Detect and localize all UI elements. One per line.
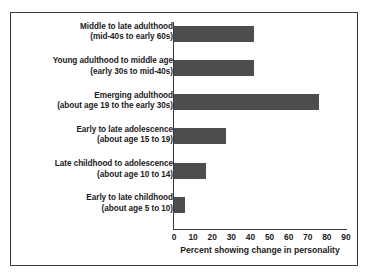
bar-row: Early to late childhood(about age 5 to 1… <box>11 193 357 227</box>
bar-track <box>174 128 346 144</box>
bar-category-label: Emerging adulthood(about age 19 to the e… <box>13 91 173 112</box>
x-axis-ticks: 0102030405060708090 <box>174 232 346 244</box>
x-tick-label: 80 <box>322 232 331 242</box>
bar-track <box>174 94 346 110</box>
bar-category-label: Early to late adolescence(about age 15 t… <box>13 125 173 146</box>
bar-track <box>174 197 346 213</box>
chart-plot-area: Middle to late adulthood(mid-40s to earl… <box>11 13 357 265</box>
bar-row: Middle to late adulthood(mid-40s to earl… <box>11 22 357 56</box>
bar <box>174 26 254 42</box>
bar-row: Late childhood to adolescence(about age … <box>11 159 357 193</box>
bar-rows: Middle to late adulthood(mid-40s to earl… <box>11 22 357 230</box>
bar-category-label-line2: (early 30s to mid-40s) <box>13 67 173 77</box>
x-tick-label: 30 <box>227 232 236 242</box>
bar-category-label-line1: Early to late adolescence <box>13 125 173 135</box>
bar-track <box>174 60 346 76</box>
bar-category-label-line2: (about age 19 to the early 30s) <box>13 101 173 111</box>
x-axis-line <box>173 229 347 230</box>
bar <box>174 128 226 144</box>
x-tick-label: 40 <box>246 232 255 242</box>
bar-category-label: Middle to late adulthood(mid-40s to earl… <box>13 22 173 43</box>
bar <box>174 60 254 76</box>
x-tick-label: 20 <box>208 232 217 242</box>
x-tick-label: 50 <box>265 232 274 242</box>
bar-category-label-line1: Early to late childhood <box>13 193 173 203</box>
bar-track <box>174 163 346 179</box>
y-axis-line <box>173 22 174 230</box>
bar-category-label-line2: (about age 5 to 10) <box>13 204 173 214</box>
bar-category-label-line1: Young adulthood to middle age <box>13 56 173 66</box>
bar-category-label-line1: Middle to late adulthood <box>13 22 173 32</box>
bar-category-label: Early to late childhood(about age 5 to 1… <box>13 193 173 214</box>
x-tick-label: 70 <box>303 232 312 242</box>
bar-category-label-line1: Late childhood to adolescence <box>13 159 173 169</box>
x-tick-label: 0 <box>172 232 177 242</box>
bar-track <box>174 26 346 42</box>
bar-row: Young adulthood to middle age(early 30s … <box>11 56 357 90</box>
bar-row: Emerging adulthood(about age 19 to the e… <box>11 91 357 125</box>
x-tick-label: 60 <box>284 232 293 242</box>
x-axis-title: Percent showing change in personality <box>174 245 346 255</box>
x-tick-label: 10 <box>188 232 197 242</box>
bar-category-label-line2: (mid-40s to early 60s) <box>13 32 173 42</box>
bar-category-label: Young adulthood to middle age(early 30s … <box>13 56 173 77</box>
bar-category-label-line1: Emerging adulthood <box>13 91 173 101</box>
bar <box>174 94 319 110</box>
bar <box>174 163 206 179</box>
bar-row: Early to late adolescence(about age 15 t… <box>11 125 357 159</box>
bar-category-label-line2: (about age 15 to 19) <box>13 135 173 145</box>
bar-category-label-line2: (about age 10 to 14) <box>13 170 173 180</box>
bar <box>174 197 185 213</box>
chart-figure: Middle to late adulthood(mid-40s to earl… <box>10 12 358 266</box>
bar-category-label: Late childhood to adolescence(about age … <box>13 159 173 180</box>
x-tick-label: 90 <box>341 232 350 242</box>
